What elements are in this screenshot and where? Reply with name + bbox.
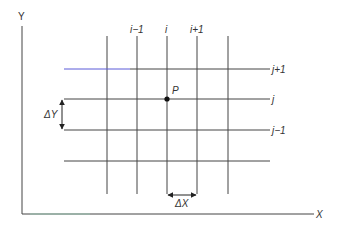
column-label-i: i bbox=[165, 24, 168, 35]
point-label-p: P bbox=[172, 85, 179, 96]
column-label-i-minus-1: i−1 bbox=[130, 24, 144, 35]
y-axis-label: Y bbox=[18, 11, 25, 22]
row-label-j: j bbox=[270, 94, 275, 105]
node-point-p bbox=[164, 96, 169, 101]
row-label-j-minus-1: j−1 bbox=[270, 125, 286, 136]
grid-canvas: Y X i−1 i i+1 j+1 j j−1 P ΔY ΔX bbox=[0, 0, 344, 231]
finite-difference-grid-diagram: Y X i−1 i i+1 j+1 j j−1 P ΔY ΔX bbox=[0, 0, 344, 231]
vertical-grid-lines bbox=[107, 36, 228, 194]
delta-x-label: ΔX bbox=[174, 198, 189, 209]
delta-y-label: ΔY bbox=[43, 109, 59, 120]
x-axis-label: X bbox=[315, 209, 323, 220]
row-label-j-plus-1: j+1 bbox=[270, 64, 286, 75]
column-label-i-plus-1: i+1 bbox=[190, 24, 204, 35]
